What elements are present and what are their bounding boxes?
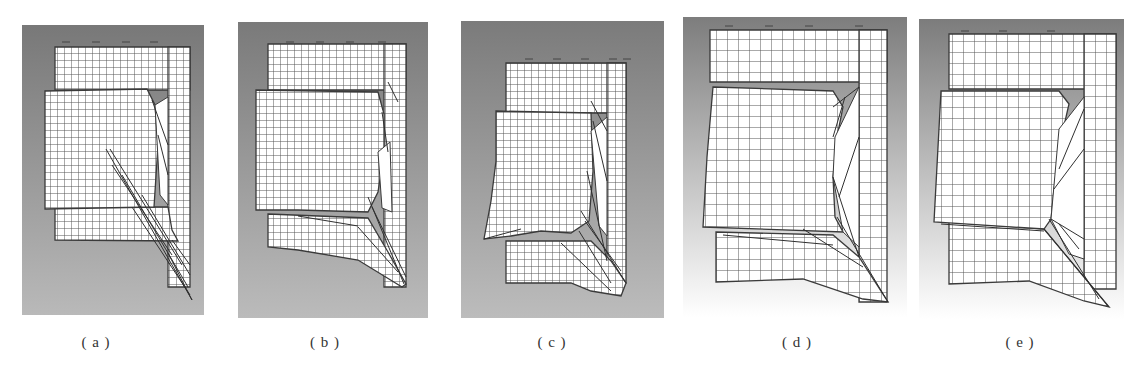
panel-label-a: ( a ) [81,334,110,351]
panel-label-d: ( d ) [782,334,812,351]
right-column [1084,34,1116,289]
mesh-plot-d [683,17,907,317]
mesh-plot-b [238,22,428,318]
panel-a [22,25,204,315]
front-sheet [484,111,593,239]
panel-d [683,17,907,317]
panel-e [919,19,1124,319]
front-sheet [934,91,1069,229]
front-sheet [256,90,384,212]
front-sheet [45,89,158,209]
panel-label-c: ( c ) [537,334,566,351]
panel-c [461,21,664,318]
panel-label-e: ( e ) [1005,334,1034,351]
front-sheet [703,87,843,232]
right-column [607,63,626,283]
mesh-plot-e [919,19,1124,319]
mesh-plot-c [461,21,664,318]
right-column [168,47,190,287]
panel-b [238,22,428,318]
panel-label-b: ( b ) [310,334,340,351]
mesh-plot-a [22,25,204,315]
